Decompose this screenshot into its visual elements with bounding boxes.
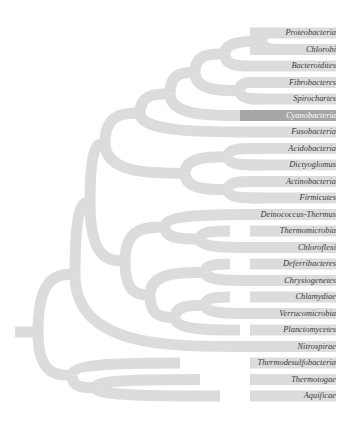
branch [195,72,240,91]
branch [228,149,250,157]
taxon-label: Chlorobi [306,44,336,56]
taxon-label: Deferribacteres [283,258,336,270]
branch [140,94,170,113]
branch [228,182,250,190]
taxon-label: Fusobacteria [291,126,336,138]
branch [95,388,220,396]
branch [105,113,140,143]
branch [125,261,150,295]
branch [205,305,250,313]
branch [240,83,250,91]
branch [125,227,165,261]
taxon-label: Deinococcus-Thermus [260,209,336,221]
taxon-label: Planctomycetes [283,324,336,336]
branch [200,231,230,239]
branch [105,143,185,173]
branch [38,274,75,332]
branch [165,227,200,239]
taxon-label: Aquificae [304,390,336,402]
branch [150,272,205,295]
branch [150,295,175,318]
taxon-label: Chrysiogenetes [284,275,336,287]
branch [195,54,225,73]
branch [200,239,250,247]
taxon-label: Spirochartes [293,93,336,105]
taxon-label: Actinobacteria [286,176,336,188]
taxon-label: Firmicutes [300,192,336,204]
branch [205,272,250,280]
taxon-label: Thermomicrobia [280,225,336,237]
branch [175,305,205,317]
taxon-label: Dictyoglomus [289,159,336,171]
taxon-label: Nitrospirae [297,341,336,353]
branch [72,375,95,387]
taxon-label: Acidobacteria [288,143,336,155]
taxon-label: Bacteroidites [291,60,336,72]
branch [95,380,200,388]
taxon-label: Verrucomicrobia [279,308,336,320]
branch [205,297,230,305]
taxon-label: Chloroflexi [298,242,336,254]
branch [205,264,230,272]
branch [185,173,228,190]
branch [170,72,195,94]
taxon-label: Cyanobacteria [286,110,336,122]
taxon-label: Proteobacteria [285,27,336,39]
branch [72,363,180,375]
branch [170,94,240,116]
branch [165,215,250,227]
branch [225,54,250,66]
taxon-label: Thermotogae [291,374,336,386]
branch [175,318,240,330]
taxon-label: Chlamydiae [295,291,336,303]
branch [38,332,72,375]
taxon-label: Fibrobacteres [289,77,336,89]
branch [90,202,125,261]
taxon-label: Thermodesulfobacteria [258,357,336,369]
branch [185,157,228,174]
